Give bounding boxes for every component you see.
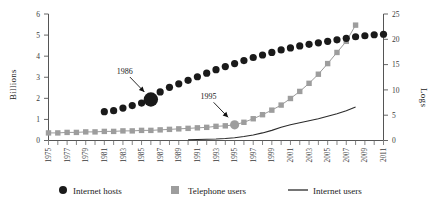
x-axis-tick-label: 1995 — [231, 148, 239, 163]
data-point-telephone — [223, 123, 228, 128]
data-point-telephone — [306, 81, 311, 86]
data-point-hosts — [231, 60, 238, 67]
data-point-telephone — [241, 120, 246, 125]
legend-label-telephone-users: Telephone users — [188, 186, 247, 196]
data-point-telephone — [148, 128, 153, 133]
data-point-hosts — [296, 42, 303, 49]
data-point-hosts — [203, 70, 210, 77]
legend-marker-circle-icon — [59, 186, 67, 194]
x-axis-tick-labels: 1975197719791981198319851987198919911993… — [45, 148, 388, 163]
data-point-hosts — [119, 105, 126, 112]
x-axis-tick-label: 1999 — [268, 148, 276, 163]
data-point-hosts — [333, 36, 340, 43]
data-point-telephone — [288, 96, 293, 101]
data-point-hosts — [371, 31, 378, 38]
legend-label-internet-users: Internet users — [313, 186, 362, 196]
data-point-telephone — [334, 50, 339, 55]
legend-label-internet-hosts: Internet hosts — [73, 186, 122, 196]
data-point-hosts — [380, 31, 387, 38]
data-point-hosts-1986 — [144, 92, 158, 106]
x-axis-tick-label: 2009 — [361, 148, 369, 163]
y-axis-left-tick-label: 0 — [36, 136, 40, 145]
x-axis-tick-label: 1979 — [82, 148, 90, 163]
x-axis-tick-label: 2001 — [287, 148, 295, 163]
y-axis-left-tick-label: 4 — [36, 52, 40, 61]
data-point-telephone — [157, 127, 162, 132]
y-axis-left-tick-label: 2 — [36, 94, 40, 103]
legend: Internet hosts Telephone users Internet … — [59, 186, 362, 196]
series-telephone-users-markers — [46, 22, 358, 135]
legend-marker-square-icon — [171, 186, 179, 194]
data-point-telephone — [46, 130, 51, 135]
legend-item-telephone-users: Telephone users — [171, 186, 247, 196]
y-axis-left-tick-label: 5 — [36, 31, 40, 40]
data-point-telephone — [176, 126, 181, 131]
data-point-hosts — [166, 84, 173, 91]
x-axis-tick-marks — [49, 141, 384, 146]
annotation-label: 1986 — [117, 67, 133, 76]
data-point-telephone — [260, 112, 265, 117]
y-axis-right-tick-label: 20 — [392, 35, 400, 44]
y-axis-right-ticks: 0510152025 — [384, 10, 400, 146]
data-point-hosts — [175, 80, 182, 87]
chart-annotations: 19861995 — [117, 67, 228, 118]
data-point-telephone — [278, 102, 283, 107]
x-axis-tick-label: 1981 — [101, 148, 109, 163]
data-point-telephone — [204, 125, 209, 130]
x-axis-tick-label: 1993 — [213, 148, 221, 163]
data-point-hosts — [129, 102, 136, 109]
data-point-telephone — [83, 129, 88, 134]
annotation-label: 1995 — [201, 92, 217, 101]
data-point-telephone — [213, 124, 218, 129]
data-point-hosts — [222, 63, 229, 70]
x-axis: 1975197719791981198319851987198919911993… — [45, 141, 388, 163]
legend-item-internet-users: Internet users — [288, 186, 362, 196]
y-axis-left-ticks: 0123456 — [36, 10, 48, 146]
data-point-telephone — [130, 128, 135, 133]
y-axis-right-tick-label: 15 — [392, 60, 400, 69]
y-axis-left: 0123456 Billions — [8, 10, 49, 146]
chart-svg: 0123456 Billions 0510152025 Logs 1975197… — [0, 0, 432, 208]
y-axis-left-tick-label: 3 — [36, 73, 40, 82]
data-point-telephone — [167, 127, 172, 132]
data-point-hosts — [315, 39, 322, 46]
data-point-telephone — [297, 89, 302, 94]
data-point-telephone — [325, 61, 330, 66]
data-point-hosts — [101, 108, 108, 115]
data-point-hosts — [278, 46, 285, 53]
data-point-hosts — [352, 33, 359, 40]
legend-item-internet-hosts: Internet hosts — [59, 186, 122, 196]
x-axis-tick-label: 2007 — [343, 148, 351, 163]
data-point-telephone — [139, 128, 144, 133]
x-axis-tick-label: 1977 — [64, 148, 72, 163]
chart-container: 0123456 Billions 0510152025 Logs 1975197… — [0, 0, 432, 208]
x-axis-tick-label: 1997 — [250, 148, 258, 163]
data-point-hosts — [157, 88, 164, 95]
data-point-telephone-1995 — [230, 120, 239, 129]
x-axis-tick-label: 1985 — [138, 148, 146, 163]
x-axis-tick-label: 2011 — [380, 148, 388, 163]
data-point-telephone — [353, 22, 358, 27]
data-point-hosts — [194, 73, 201, 80]
x-axis-tick-label: 2003 — [306, 148, 314, 163]
data-point-hosts — [250, 54, 257, 61]
x-axis-tick-label: 1987 — [157, 148, 165, 163]
data-point-telephone — [55, 130, 60, 135]
data-point-telephone — [64, 130, 69, 135]
data-point-hosts — [324, 38, 331, 45]
data-point-hosts — [361, 32, 368, 39]
data-point-hosts — [305, 41, 312, 48]
data-point-hosts — [184, 77, 191, 84]
data-point-telephone — [120, 128, 125, 133]
data-point-hosts — [343, 35, 350, 42]
y-axis-right-tick-label: 0 — [392, 136, 396, 145]
x-axis-tick-label: 1991 — [194, 148, 202, 163]
data-point-telephone — [195, 125, 200, 130]
data-point-hosts — [240, 57, 247, 64]
y-axis-left-title: Billions — [8, 69, 18, 100]
data-point-telephone — [74, 130, 79, 135]
data-point-telephone — [92, 129, 97, 134]
y-axis-left-tick-label: 1 — [36, 115, 40, 124]
data-point-telephone — [102, 129, 107, 134]
x-axis-tick-label: 2005 — [324, 148, 332, 163]
